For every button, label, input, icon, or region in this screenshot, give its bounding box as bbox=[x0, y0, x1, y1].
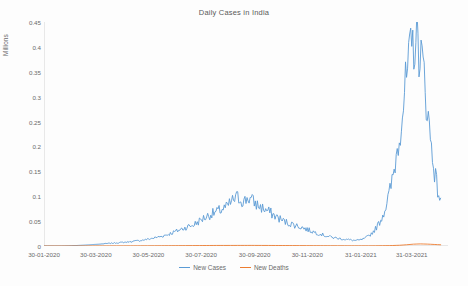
legend-label: New Cases bbox=[193, 264, 226, 271]
y-tick-label: 0 bbox=[38, 243, 41, 250]
legend-swatch-icon bbox=[179, 267, 190, 268]
x-tick-label: 30-05-2020 bbox=[133, 251, 165, 258]
x-axis-tick-labels: 30-01-202030-03-202030-05-202030-07-2020… bbox=[44, 249, 448, 261]
x-tick-label: 31-03-2021 bbox=[396, 251, 428, 258]
plot-area bbox=[44, 22, 448, 246]
x-tick-label: 30-01-2020 bbox=[28, 251, 60, 258]
series-line-new-cases bbox=[44, 22, 441, 246]
y-tick-label: 0.3 bbox=[32, 93, 41, 100]
y-tick-label: 0.35 bbox=[29, 68, 41, 75]
legend-item[interactable]: New Deaths bbox=[240, 264, 289, 271]
y-axis-tick-labels: 00.050.10.150.20.250.30.350.40.45 bbox=[10, 22, 41, 246]
legend-label: New Deaths bbox=[254, 264, 289, 271]
y-tick-label: 0.2 bbox=[32, 143, 41, 150]
y-tick-label: 0.1 bbox=[32, 193, 41, 200]
legend-swatch-icon bbox=[240, 267, 251, 268]
series-plot bbox=[44, 22, 448, 246]
x-tick-label: 31-01-2021 bbox=[345, 251, 377, 258]
x-tick-label: 30-09-2020 bbox=[239, 251, 271, 258]
y-tick-label: 0.25 bbox=[29, 118, 41, 125]
y-axis-title: Millions bbox=[2, 34, 9, 56]
chart-legend: New CasesNew Deaths bbox=[0, 264, 468, 271]
x-tick-label: 30-11-2020 bbox=[292, 251, 323, 258]
x-tick-label: 30-07-2020 bbox=[185, 251, 217, 258]
chart-container: Daily Cases in India Millions 00.050.10.… bbox=[0, 0, 468, 286]
x-tick-label: 30-03-2020 bbox=[80, 251, 112, 258]
y-tick-label: 0.15 bbox=[29, 168, 41, 175]
legend-item[interactable]: New Cases bbox=[179, 264, 226, 271]
chart-title: Daily Cases in India bbox=[0, 8, 468, 17]
y-tick-label: 0.05 bbox=[29, 218, 41, 225]
y-tick-label: 0.4 bbox=[32, 43, 41, 50]
y-tick-label: 0.45 bbox=[29, 19, 41, 26]
